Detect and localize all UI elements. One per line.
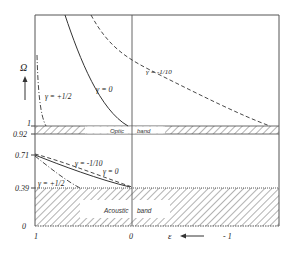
curve-gamma-pos-upper — [37, 55, 46, 126]
arrow-up-icon — [23, 76, 28, 100]
optic-band-label-2: band — [137, 128, 151, 134]
y-tick-1: 1 — [27, 119, 31, 128]
optic-band-label-box — [85, 127, 165, 134]
y-axis-symbol: Ω — [20, 62, 27, 73]
acoustic-band: Acoustic band — [35, 188, 279, 226]
label-gamma-pos-lower: γ = +1/2 — [38, 179, 65, 188]
y-tick-0.71: 0.71 — [15, 151, 29, 160]
arrow-left-icon — [180, 234, 204, 239]
label-gamma-pos-upper: γ = +1/2 — [45, 92, 72, 101]
y-tick-0.39: 0.39 — [15, 184, 29, 193]
label-gamma-0-lower: γ = 0 — [103, 167, 119, 176]
label-gamma-neg-lower: γ = -1/10 — [75, 159, 103, 168]
x-tick-1: 1 — [34, 232, 38, 241]
curve-gamma-0-upper — [65, 15, 128, 126]
label-gamma-0-upper: γ = 0 — [96, 85, 113, 94]
acoustic-band-label-2: band — [137, 207, 152, 214]
x-axis-symbol: ε — [168, 231, 172, 241]
optic-band-label: Optic — [110, 128, 124, 134]
x-tick-0: 0 — [129, 232, 133, 241]
label-gamma-neg-upper: γ = -1/10 — [146, 68, 172, 76]
y-tick-0: 0 — [22, 222, 26, 231]
acoustic-band-label: Acoustic — [103, 207, 129, 214]
x-tick-neg1: - 1 — [223, 232, 232, 241]
curve-gamma-neg-upper — [91, 15, 270, 126]
optic-band: Optic band — [35, 126, 279, 134]
y-tick-0.92: 0.92 — [13, 130, 27, 139]
y-axis-ticks: 1 0.92 0.71 0.39 0 — [13, 119, 35, 231]
dispersion-diagram: Optic band Acoustic band γ = 0 γ = -1/10… — [0, 0, 293, 258]
